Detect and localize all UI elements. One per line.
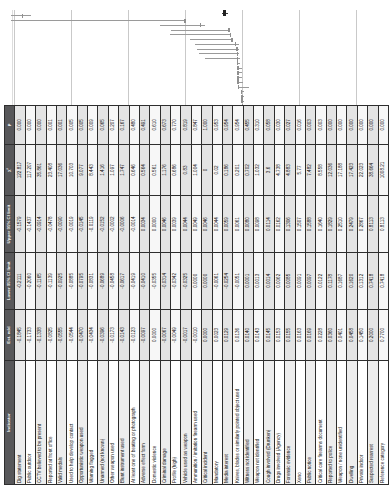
cell-p-value: 0.030 xyxy=(274,106,284,145)
cell-upper-ci: 0.2479 xyxy=(347,196,357,253)
cell-upper-ci: 0.0080 xyxy=(243,196,253,253)
table-row: Criminal damage-0.0067-0.03140.00461.176… xyxy=(160,106,170,485)
cell-chi-square: 38.664 xyxy=(368,144,378,196)
table-row: At least one of beating or photograph-0.… xyxy=(129,106,139,485)
table-row: Vehicle used as weapon-0.0017-0.03250.00… xyxy=(181,106,191,485)
cell-chi-square: 17.423 xyxy=(347,144,357,196)
cell-indicator: Knives, blades or similarly pointed obje… xyxy=(233,361,243,485)
data-point-marker xyxy=(230,33,232,37)
cell-indicator: Suspected rearrest xyxy=(368,361,378,485)
cell-lower-ci: 0.1178 xyxy=(326,252,336,309)
cell-indicator: Vehicle used as weapon xyxy=(181,361,191,485)
data-point-marker xyxy=(237,71,239,75)
cell-p-value: 0.003 xyxy=(305,106,315,145)
cell-chi-square: 0.702 xyxy=(243,144,253,196)
table-row: Private indoor0.14500.13120.286722.0230.… xyxy=(357,106,367,485)
cell-upper-ci: 0.8113 xyxy=(378,196,388,253)
table-row: Valid medals-0.0555-0.0925-0.009017.0360… xyxy=(56,106,66,485)
cell-p-value: 0.000 xyxy=(378,106,388,145)
cell-p-value: 0.027 xyxy=(285,106,295,145)
header-indicator: Indicator xyxy=(5,361,15,485)
cell-chi-square: 0.201 xyxy=(233,144,243,196)
table-row: Opportunistic weapon used-0.0470-0.0795-… xyxy=(77,106,87,485)
cell-estimate: 0.2000 xyxy=(368,309,378,361)
data-point-with-ci xyxy=(160,25,204,26)
data-point-with-ci xyxy=(11,20,185,21)
cell-indicator: Ammunition / imitation firearm used xyxy=(191,361,201,485)
cell-lower-ci: -0.0061 xyxy=(212,252,222,309)
cell-chi-square: 1.032 xyxy=(254,144,264,196)
data-point-with-ci xyxy=(197,49,239,50)
cell-chi-square: 0 xyxy=(202,144,212,196)
table-row: Cough involved (Drunken)0.01450.00140.01… xyxy=(264,106,274,485)
cell-p-value: 0.167 xyxy=(119,106,129,145)
cell-chi-square: 0.561 xyxy=(150,144,160,196)
cell-lower-ci: -0.0325 xyxy=(181,252,191,309)
table-row: Profile (high)-0.0049-0.03420.00390.6860… xyxy=(171,106,181,485)
cell-p-value: 0.819 xyxy=(181,106,191,145)
cell-p-value: 0.005 xyxy=(77,106,87,145)
cell-upper-ci: 0.8113 xyxy=(368,196,378,253)
cell-p-value: 0.009 xyxy=(88,106,98,145)
cell-estimate: 0.0023 xyxy=(212,309,222,361)
cell-indicator: Critical care firearms document xyxy=(316,361,326,485)
cell-indicator: Dig statement xyxy=(15,361,25,485)
table-row: Critical care firearms document0.02280.0… xyxy=(316,106,326,485)
data-point-marker xyxy=(241,99,243,103)
cell-upper-ci: 0.0039 xyxy=(171,196,181,253)
table-row: Used to help develop contact-0.0544-0.08… xyxy=(67,106,77,485)
cell-lower-ci: -0.1165 xyxy=(36,252,46,309)
cell-indicator: Valid medals xyxy=(56,361,66,485)
cell-lower-ci: -0.0925 xyxy=(56,252,66,309)
cell-p-value: 0.000 xyxy=(337,106,347,145)
reference-category-marker xyxy=(223,11,226,17)
cell-estimate: 0.0129 xyxy=(222,309,232,361)
cell-chi-square: 0.564 xyxy=(139,144,149,196)
cell-upper-ci: -0.0145 xyxy=(77,196,87,253)
cell-upper-ci: 0.2867 xyxy=(357,196,367,253)
cell-chi-square: 9.077 xyxy=(77,144,87,196)
cell-lower-ci: 0.0000 xyxy=(191,252,201,309)
cell-indicator: Forensic evidence xyxy=(285,361,295,485)
cell-indicator: Criminal damage xyxy=(160,361,170,485)
cell-upper-ci: 0.1640 xyxy=(316,196,326,253)
cell-lower-ci: -0.0051 xyxy=(233,252,243,309)
cell-lower-ci: 0.0091 xyxy=(295,252,305,309)
cell-estimate: 0.7700 xyxy=(378,309,388,361)
cell-upper-ci: 0.2510 xyxy=(337,196,347,253)
table-row: Reported to police0.03600.11780.182912.0… xyxy=(326,106,336,485)
table-row: Reference category0.77000.74180.81131008… xyxy=(378,106,388,485)
cell-indicator: Critical incident xyxy=(202,361,212,485)
cell-p-value: 0.065 xyxy=(98,106,108,145)
reference-category-point xyxy=(222,13,228,14)
cell-indicator: Used to help develop contact xyxy=(67,361,77,485)
data-point-marker xyxy=(231,38,233,42)
cell-chi-square: 35.861 xyxy=(36,144,46,196)
cell-indicator: Reported at front office xyxy=(46,361,56,485)
table-row: Weapon not identified0.01430.00130.00981… xyxy=(254,106,264,485)
cell-p-value: 0.847 xyxy=(191,106,201,145)
cell-upper-ci: 0.0034 xyxy=(139,196,149,253)
table-row: Drugs involved (Agency)0.01530.00620.016… xyxy=(274,106,284,485)
results-table-rotated-canvas: Indicator Est. ndd Lower 95% CI limit Up… xyxy=(4,227,384,485)
data-point-marker xyxy=(241,90,243,94)
cell-indicator: Weapon not identified xyxy=(254,361,264,485)
cell-upper-ci: -0.0119 xyxy=(88,196,98,253)
header-estimate: Est. ndd xyxy=(5,309,15,361)
results-table-body: Dig statement-0.1845-0.2111-0.1579122.81… xyxy=(15,106,389,485)
cell-indicator: Witness not identified xyxy=(243,361,253,485)
table-row: Blunt instrument used-0.0143-0.0617-0.00… xyxy=(119,106,129,485)
cell-estimate: -0.0143 xyxy=(119,309,129,361)
cell-upper-ci: 0.0044 xyxy=(212,196,222,253)
cell-upper-ci: -0.0019 xyxy=(67,196,77,253)
results-table-region: Indicator Est. ndd Lower 95% CI limit Up… xyxy=(0,225,388,488)
data-point-with-ci xyxy=(241,101,244,102)
cell-indicator: Reported to police xyxy=(326,361,336,485)
cell-chi-square: 22.023 xyxy=(357,144,367,196)
cell-upper-ci: 0.0114 xyxy=(264,196,274,253)
cell-upper-ci: 0.1829 xyxy=(326,196,336,253)
cell-lower-ci: 0.0122 xyxy=(316,252,326,309)
cell-upper-ci: -0.1437 xyxy=(25,196,35,253)
cell-estimate: 0.0143 xyxy=(254,309,264,361)
